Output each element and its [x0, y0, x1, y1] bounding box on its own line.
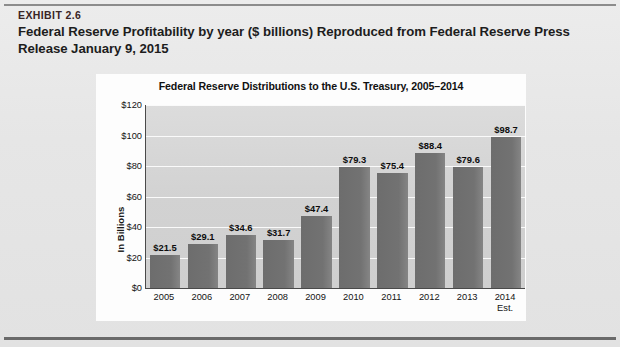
x-axis-tick-label: 2007 — [229, 292, 250, 303]
gridline — [146, 136, 525, 137]
plot-area: $120$100$80$60$40$20$0$21.5$29.1$34.6$31… — [145, 105, 525, 288]
y-axis-tick-label: $80 — [126, 161, 142, 171]
bar[interactable] — [453, 167, 483, 288]
y-axis-tick-label: $40 — [126, 222, 142, 232]
bar-value-label: $79.6 — [456, 154, 479, 165]
bar[interactable] — [415, 153, 445, 288]
y-axis-tick-label: $20 — [126, 253, 142, 263]
y-axis-tick-label: $0 — [132, 283, 142, 293]
bar-value-label: $31.7 — [267, 227, 290, 238]
bar[interactable] — [263, 240, 293, 288]
bar[interactable] — [188, 244, 218, 288]
y-axis-tick-label: $60 — [126, 192, 142, 202]
x-axis-tick-label: 2005 — [154, 292, 175, 303]
exhibit-top-rule — [4, 4, 616, 6]
bar[interactable] — [301, 216, 331, 288]
gridline — [146, 105, 525, 106]
bar[interactable] — [226, 235, 256, 288]
y-axis-tick-label: $100 — [121, 131, 142, 141]
bar-value-label: $47.4 — [305, 203, 328, 214]
x-axis-tick-label: 2008 — [267, 292, 288, 303]
exhibit-container: EXHIBIT 2.6 Federal Reserve Profitabilit… — [0, 0, 620, 347]
x-axis-line — [145, 288, 525, 289]
bar-value-label: $34.6 — [229, 222, 252, 233]
x-axis-tick-label: 2006 — [192, 292, 213, 303]
x-axis-tick-label: 2013 — [457, 292, 478, 303]
x-axis-tick-label: 2014Est. — [495, 292, 516, 314]
x-axis-tick-label: 2012 — [419, 292, 440, 303]
y-axis-tick-label: $120 — [121, 100, 142, 110]
exhibit-title: Federal Reserve Profitability by year ($… — [18, 24, 588, 57]
exhibit-bottom-rule — [4, 337, 616, 340]
chart-title: Federal Reserve Distributions to the U.S… — [96, 80, 526, 92]
bar-value-label: $98.7 — [494, 124, 517, 135]
x-axis-tick-label: 2011 — [381, 292, 401, 303]
bar-value-label: $29.1 — [191, 231, 214, 242]
bar-value-label: $21.5 — [153, 242, 176, 253]
bar-value-label: $79.3 — [343, 154, 366, 165]
bar[interactable] — [377, 173, 407, 288]
x-axis-tick-label: 2010 — [343, 292, 364, 303]
bar-value-label: $75.4 — [381, 160, 404, 171]
chart-panel: Federal Reserve Distributions to the U.S… — [96, 74, 526, 321]
bar[interactable] — [150, 255, 180, 288]
plot-wrapper: $120$100$80$60$40$20$0$21.5$29.1$34.6$31… — [145, 105, 524, 288]
bar[interactable] — [339, 167, 369, 288]
y-axis-title: In Billions — [115, 185, 126, 275]
bar-value-label: $88.4 — [419, 140, 442, 151]
exhibit-number: EXHIBIT 2.6 — [18, 9, 81, 21]
x-axis-tick-label: 2009 — [305, 292, 326, 303]
bar[interactable] — [491, 137, 521, 288]
